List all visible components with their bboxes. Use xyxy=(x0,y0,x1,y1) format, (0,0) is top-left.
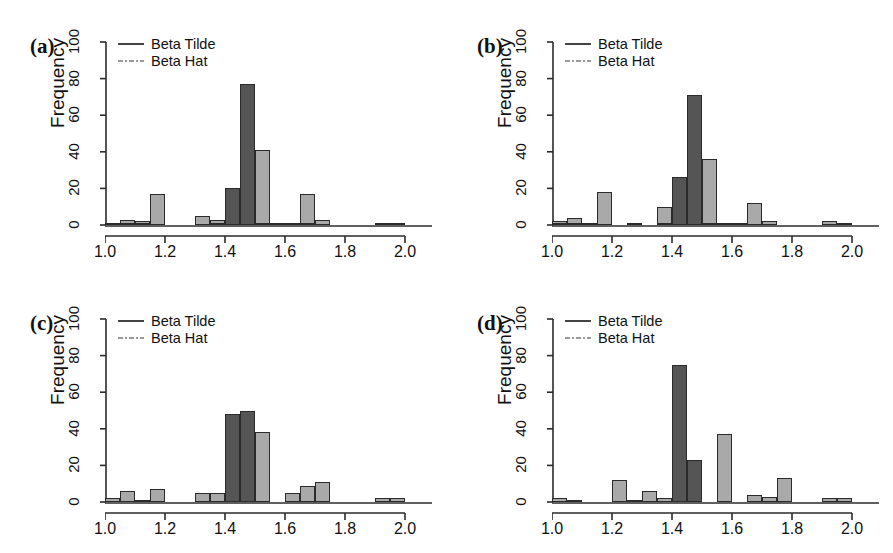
x-tick-label: 1.8 xyxy=(781,243,803,261)
histogram-bar xyxy=(105,223,120,225)
histogram-bar xyxy=(732,223,747,225)
dash-dot-line-icon xyxy=(565,56,591,66)
y-axis-ticks: 020406080100 xyxy=(503,0,537,276)
histogram-bar xyxy=(150,194,165,225)
y-tick-label: 60 xyxy=(65,375,82,409)
x-tick-label: 2.0 xyxy=(394,520,416,538)
baseline xyxy=(552,225,881,229)
histogram-bar xyxy=(195,493,210,502)
histogram-bar xyxy=(777,478,792,502)
histogram-bar xyxy=(285,493,300,502)
histogram-bar xyxy=(822,498,837,502)
histogram-bar xyxy=(687,95,702,225)
legend-label: Beta Tilde xyxy=(151,313,216,329)
y-tick-label: 100 xyxy=(512,25,529,59)
y-tick-label: 40 xyxy=(512,134,529,168)
histogram-bar xyxy=(375,498,390,502)
histogram-bar xyxy=(747,495,762,502)
y-tick-label: 80 xyxy=(512,338,529,372)
chart-legend: Beta TildeBeta Hat xyxy=(565,36,663,70)
x-tick-label: 1.0 xyxy=(541,243,563,261)
solid-line-icon xyxy=(565,39,591,49)
dash-dot-line-icon xyxy=(565,333,591,343)
chart-panel-b: (b)Frequency020406080100Beta TildeBeta H… xyxy=(447,0,893,276)
histogram-bar xyxy=(135,223,150,225)
y-tick-label: 0 xyxy=(65,485,82,519)
histogram-bar xyxy=(627,500,642,502)
y-tick-label: 80 xyxy=(65,338,82,372)
histogram-bar xyxy=(375,223,390,225)
histogram-bar xyxy=(627,223,642,225)
histogram-bar xyxy=(612,480,627,502)
histogram-bar xyxy=(210,223,225,225)
y-axis-ticks: 020406080100 xyxy=(56,277,90,553)
solid-line-icon xyxy=(118,39,144,49)
histogram-bar xyxy=(567,223,582,225)
baseline xyxy=(105,502,434,506)
histogram-bar xyxy=(687,460,702,502)
chart-panel-c: (c)Frequency020406080100Beta TildeBeta H… xyxy=(0,277,446,553)
histogram-bar xyxy=(567,500,582,502)
x-tick-label: 1.6 xyxy=(274,520,296,538)
x-tick-label: 2.0 xyxy=(394,243,416,261)
x-tick-label: 2.0 xyxy=(841,243,863,261)
y-tick-label: 0 xyxy=(512,485,529,519)
legend-label: Beta Tilde xyxy=(598,313,663,329)
x-tick-label: 1.8 xyxy=(334,243,356,261)
legend-label: Beta Hat xyxy=(598,53,654,69)
histogram-bar xyxy=(270,223,285,225)
x-tick-label: 1.8 xyxy=(781,520,803,538)
y-tick-label: 20 xyxy=(512,448,529,482)
histogram-bar xyxy=(105,498,120,502)
histogram-bar xyxy=(837,498,852,502)
y-axis-ticks: 020406080100 xyxy=(56,0,90,276)
x-tick-label: 1.6 xyxy=(274,243,296,261)
x-tick-label: 1.8 xyxy=(334,520,356,538)
histogram-bar xyxy=(822,221,837,225)
histogram-bar xyxy=(300,486,315,502)
histogram-bar xyxy=(582,223,597,225)
histogram-bar xyxy=(672,177,687,225)
y-tick-label: 100 xyxy=(65,302,82,336)
y-tick-label: 40 xyxy=(65,134,82,168)
histogram-bar xyxy=(225,188,240,225)
histogram-bar xyxy=(300,223,315,225)
x-tick-label: 1.0 xyxy=(94,243,116,261)
chart-legend: Beta TildeBeta Hat xyxy=(118,36,216,70)
histogram-bar xyxy=(702,159,717,225)
y-axis-ticks: 020406080100 xyxy=(503,277,537,553)
histogram-bar xyxy=(210,493,225,502)
legend-item-beta-hat: Beta Hat xyxy=(118,53,216,68)
x-tick-label: 1.4 xyxy=(661,520,683,538)
histogram-bar xyxy=(150,489,165,502)
baseline xyxy=(552,502,881,506)
legend-item-beta-hat: Beta Hat xyxy=(565,330,663,345)
histogram-bar xyxy=(552,498,567,502)
histogram-bar xyxy=(195,216,210,225)
histogram-bar xyxy=(255,432,270,502)
x-tick-label: 1.0 xyxy=(94,520,116,538)
histogram-bar xyxy=(135,500,150,502)
histogram-bar xyxy=(390,223,405,225)
y-tick-label: 80 xyxy=(65,61,82,95)
histogram-bar xyxy=(702,223,717,225)
x-axis-tick-labels: 1.01.21.41.61.82.0 xyxy=(105,243,420,265)
x-tick-label: 1.6 xyxy=(721,243,743,261)
x-tick-label: 1.4 xyxy=(214,520,236,538)
histogram-bar xyxy=(240,411,255,503)
x-tick-label: 1.4 xyxy=(661,243,683,261)
solid-line-icon xyxy=(565,316,591,326)
x-tick-label: 1.2 xyxy=(601,520,623,538)
histogram-bar xyxy=(642,491,657,502)
y-tick-label: 20 xyxy=(65,171,82,205)
x-axis-tick-labels: 1.01.21.41.61.82.0 xyxy=(552,520,867,542)
histogram-bar xyxy=(762,497,777,502)
histogram-bar xyxy=(552,223,567,225)
y-tick-label: 0 xyxy=(512,208,529,242)
legend-item-beta-hat: Beta Hat xyxy=(118,330,216,345)
histogram-bar xyxy=(285,223,300,225)
legend-item-beta-tilde: Beta Tilde xyxy=(565,313,663,328)
y-tick-label: 100 xyxy=(65,25,82,59)
x-axis-tick-labels: 1.01.21.41.61.82.0 xyxy=(105,520,420,542)
histogram-bar xyxy=(255,223,270,225)
